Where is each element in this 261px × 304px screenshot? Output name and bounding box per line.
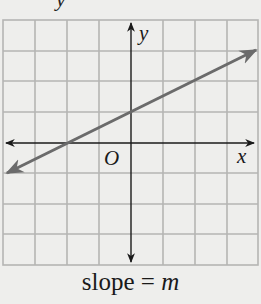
- slope-caption: slope = m: [0, 268, 261, 296]
- x-axis-label: x: [236, 144, 247, 168]
- slope-variable: m: [161, 268, 179, 295]
- caption-prefix: slope =: [82, 268, 161, 295]
- origin-label: O: [104, 146, 119, 170]
- coordinate-graph: y x O: [0, 0, 261, 304]
- y-axis-label: y: [137, 21, 149, 45]
